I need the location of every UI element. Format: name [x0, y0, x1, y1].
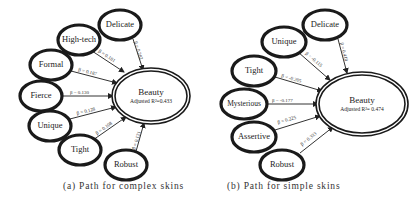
- outcome-node-beauty-b: Beauty Adjusted R²= 0.474: [316, 72, 408, 136]
- svg-text:Tight: Tight: [245, 65, 264, 75]
- svg-text:Delicate: Delicate: [106, 19, 135, 29]
- node-unique: Unique: [29, 111, 71, 141]
- node-delicate: Delicate: [303, 10, 347, 40]
- svg-text:Fierce: Fierce: [30, 90, 51, 100]
- node-fierce: Fierce: [20, 81, 62, 111]
- node-tight: Tight: [59, 135, 101, 165]
- node-assertive: Assertive: [232, 122, 276, 152]
- svg-text:Formal: Formal: [39, 59, 64, 69]
- node-robust: Robust: [105, 150, 147, 180]
- beta-delicate: β = 0.282: [133, 41, 144, 61]
- beta-mysterious: β = -0.177: [272, 98, 293, 103]
- svg-text:Mysterious: Mysterious: [227, 99, 261, 108]
- path-diagrams: β = 0.282 β = 0.181 β = 0.187 β = 0.130 …: [0, 0, 413, 204]
- caption-a: (a) Path for complex skins: [63, 181, 184, 191]
- svg-text:Unique: Unique: [271, 36, 296, 46]
- beta-fierce: β = 0.130: [70, 90, 90, 95]
- beta-delicate: β = 0.418: [339, 42, 349, 62]
- node-robust: Robust: [260, 150, 304, 180]
- outcome-label: Beauty: [349, 95, 375, 105]
- svg-text:High-tech: High-tech: [62, 34, 97, 44]
- svg-text:Delicate: Delicate: [311, 19, 340, 29]
- node-delicate: Delicate: [99, 10, 141, 40]
- node-formal: Formal: [30, 50, 72, 80]
- node-hightech: High-tech: [58, 25, 100, 55]
- svg-text:Assertive: Assertive: [238, 131, 270, 141]
- caption-b: (b) Path for simple skins: [227, 181, 340, 191]
- beta-robust: β = 0.333: [300, 131, 319, 147]
- svg-text:Robust: Robust: [270, 159, 295, 169]
- diagram-simple-skins: β = 0.418 β = -0.115 β = -0.205 β = -0.1…: [221, 10, 408, 180]
- node-unique: Unique: [262, 27, 306, 57]
- beta-robust: β = 0.121: [131, 130, 142, 150]
- node-tight: Tight: [232, 56, 276, 86]
- outcome-label: Beauty: [138, 87, 164, 97]
- diagram-complex-skins: β = 0.282 β = 0.181 β = 0.187 β = 0.130 …: [20, 10, 190, 180]
- svg-text:Unique: Unique: [37, 120, 62, 130]
- outcome-r2: Adjusted R²=0.433: [130, 98, 172, 104]
- node-mysterious: Mysterious: [221, 89, 267, 119]
- beta-assertive: β = 0.225: [277, 115, 297, 125]
- svg-text:Tight: Tight: [71, 144, 90, 154]
- svg-text:Robust: Robust: [114, 159, 139, 169]
- outcome-r2: Adjusted R²= 0.474: [340, 106, 384, 112]
- outcome-node-beauty-a: Beauty Adjusted R²=0.433: [112, 68, 190, 124]
